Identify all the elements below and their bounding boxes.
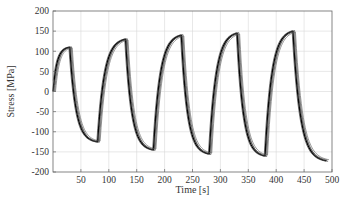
x-tick-label: 150 xyxy=(130,175,145,185)
x-tick-label: 100 xyxy=(102,175,117,185)
y-axis-label: Stress [MPa] xyxy=(5,66,16,118)
x-axis-label: Time [s] xyxy=(176,184,210,195)
x-tick-label: 400 xyxy=(269,175,284,185)
y-tick-label: 200 xyxy=(35,6,50,16)
y-tick-label: -150 xyxy=(32,147,50,157)
y-tick-label: -200 xyxy=(32,167,50,177)
x-tick-label: 500 xyxy=(325,175,340,185)
y-tick-label: 100 xyxy=(35,47,50,57)
x-tick-label: 350 xyxy=(241,175,256,185)
y-tick-label: 150 xyxy=(35,26,50,36)
x-tick-label: 50 xyxy=(76,175,86,185)
stress-time-chart: 5010015020025030035040045050020015010050… xyxy=(0,0,344,203)
y-tick-label: 0 xyxy=(44,87,49,97)
series-layer xyxy=(53,31,329,162)
y-tick-label: -50 xyxy=(36,107,49,117)
x-tick-label: 300 xyxy=(213,175,228,185)
x-tick-label: 200 xyxy=(157,175,172,185)
series-line-run-5 xyxy=(53,31,325,161)
x-tick-label: 450 xyxy=(297,175,312,185)
y-tick-label: -100 xyxy=(32,127,50,137)
grid-layer xyxy=(53,11,332,172)
y-tick-label: 50 xyxy=(40,67,50,77)
